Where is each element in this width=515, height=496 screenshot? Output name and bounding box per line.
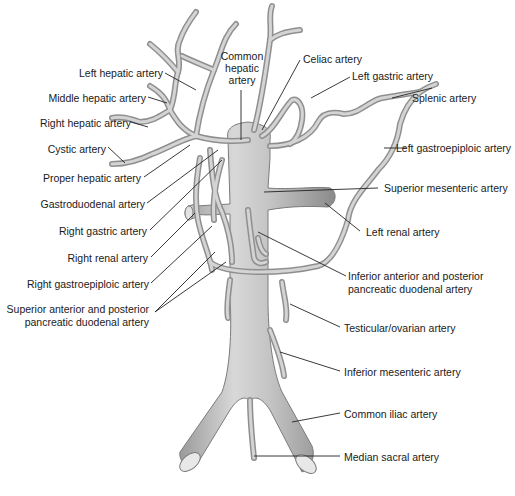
label-right-renal-artery: Right renal artery — [67, 252, 148, 264]
label-right-gastroepiploic-artery: Right gastroepiploic artery — [27, 278, 149, 290]
label-left-hepatic-artery: Left hepatic artery — [79, 67, 163, 79]
label-middle-hepatic-artery: Middle hepatic artery — [49, 92, 146, 104]
label-testicular-ovarian-artery: Testicular/ovarian artery — [344, 322, 455, 334]
label-superior-mesenteric-artery: Superior mesenteric artery — [384, 182, 508, 194]
label-right-hepatic-artery: Right hepatic artery — [40, 117, 131, 129]
label-common-hepatic-artery-line3: artery — [218, 74, 266, 86]
label-gastroduodenal-artery: Gastroduodenal artery — [41, 198, 145, 210]
label-inferior-mesenteric-artery: Inferior mesenteric artery — [344, 366, 461, 378]
label-left-gastroepiploic-artery: Left gastroepiploic artery — [396, 142, 511, 154]
label-common-hepatic-artery-line2: hepatic — [218, 62, 266, 74]
label-superior-pancreatic-duodenal-line1: Superior anterior and posterior — [7, 303, 149, 315]
label-common-hepatic-artery-line1: Common — [218, 50, 266, 62]
label-splenic-artery: Splenic artery — [412, 92, 476, 104]
label-left-renal-artery: Left renal artery — [366, 226, 440, 238]
label-inferior-pancreatic-duodenal-line1: Inferior anterior and posterior — [348, 270, 483, 282]
label-common-iliac-artery: Common iliac artery — [344, 408, 437, 420]
label-inferior-pancreatic-duodenal-line2: pancreatic duodenal artery — [348, 283, 472, 295]
label-median-sacral-artery: Median sacral artery — [344, 451, 439, 463]
label-cystic-artery: Cystic artery — [48, 143, 106, 155]
label-celiac-artery: Celiac artery — [303, 53, 362, 65]
label-left-gastric-artery: Left gastric artery — [352, 70, 433, 82]
label-right-gastric-artery: Right gastric artery — [59, 225, 147, 237]
label-proper-hepatic-artery: Proper hepatic artery — [43, 172, 141, 184]
label-superior-pancreatic-duodenal-line2: pancreatic duodenal artery — [25, 316, 149, 328]
